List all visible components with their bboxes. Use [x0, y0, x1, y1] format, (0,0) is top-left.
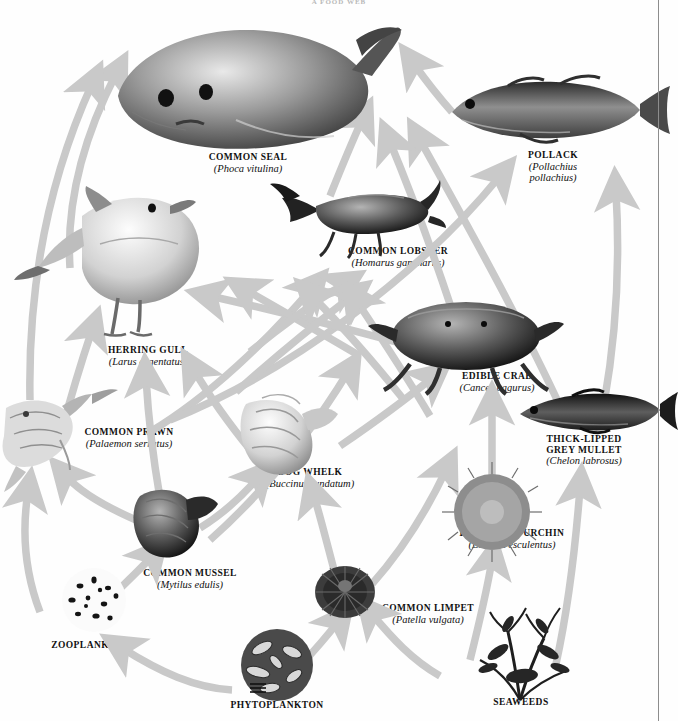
organism-phytoplankton [241, 629, 313, 701]
organism-common-mussel [133, 490, 218, 558]
organism-herring-gull [14, 186, 199, 336]
food-web-diagram: A FOOD WEB [0, 0, 678, 721]
organism-seaweeds [477, 608, 570, 700]
organism-common-seal [118, 27, 402, 149]
organism-illustrations [0, 0, 678, 721]
organism-common-limpet [315, 566, 375, 618]
organism-dog-whelk [241, 395, 338, 475]
page-margin-rule [658, 0, 659, 721]
organism-edible-sea-urchin [442, 462, 542, 562]
organism-common-prawn [3, 389, 119, 492]
organism-edible-crab [368, 302, 564, 394]
organism-common-lobster [270, 180, 446, 258]
organism-zooplankton [62, 568, 126, 632]
organism-pollack [452, 76, 670, 142]
organism-grey-mullet [520, 390, 678, 433]
